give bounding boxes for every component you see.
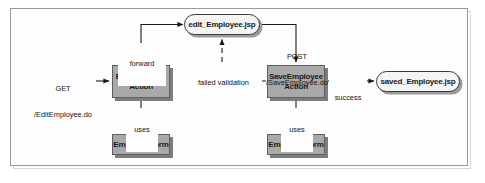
edge-label-post-request: POST /SaveEmployee.do [265,36,329,105]
edge-label-line1: uses [282,126,312,135]
edge-label-line1: failed validation [186,79,261,88]
edge-label-line2: /SaveEmployee.do [265,79,329,88]
edge-label-line1: GET [28,85,98,94]
edge-label-edit-uses: uses [126,109,158,152]
edge-label-line1: POST [265,53,329,62]
edge-label-failed-validation: failed validation [185,62,262,105]
edge-label-line1: success [330,94,366,103]
edge-label-line1: forward [119,60,165,69]
edge-label-get-request: GET /EditEmployee.do [28,68,98,137]
edge-label-save-uses: uses [281,109,313,152]
edge-label-line2: /EditEmployee.do [28,111,98,120]
node-label: saved_Employee.jsp [380,77,455,87]
edge-label-forward: forward [118,43,166,86]
edge-label-line1: uses [127,126,157,135]
node-saved-employee-jsp[interactable]: saved_Employee.jsp [376,71,460,92]
node-label: edit_Employee.jsp [189,20,256,30]
edge-label-success: success [329,77,367,120]
node-edit-employee-jsp[interactable]: edit_Employee.jsp [184,14,260,35]
diagram-page: edit_Employee.jsp EditEmployeeAction Sav… [0,0,485,183]
